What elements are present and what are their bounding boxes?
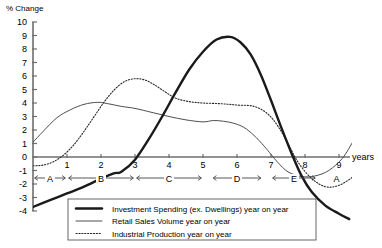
phase-label-c-2: C <box>166 174 173 184</box>
series-line-industrial-production <box>33 79 353 188</box>
y-tick-label: 8 <box>22 44 27 54</box>
phase-brackets: ABCDEA <box>35 174 340 184</box>
y-tick-label: -4 <box>19 206 27 216</box>
y-tick-label: -2 <box>19 179 27 189</box>
x-tick-label: 7 <box>268 160 273 170</box>
y-tick-label: 7 <box>22 58 27 68</box>
y-tick-label: 1 <box>22 139 27 149</box>
y-tick-label: 10 <box>17 17 27 27</box>
x-tick-label: 2 <box>98 160 103 170</box>
legend-label-0: Investment Spending (ex. Dwellings) year… <box>112 205 289 214</box>
y-tick-label: 5 <box>22 85 27 95</box>
legend-label-1: Retail Sales Volume year on year <box>112 217 231 226</box>
x-tick-labels: 123456789 <box>64 160 341 170</box>
legend: Investment Spending (ex. Dwellings) year… <box>68 199 316 240</box>
y-tick-label: 4 <box>22 98 27 108</box>
x-tick-label: 5 <box>200 160 205 170</box>
y-axis <box>32 22 37 211</box>
phase-label-a-0: A <box>47 174 53 184</box>
series-group <box>33 37 353 219</box>
y-tick-label: -1 <box>19 166 27 176</box>
y-axis-title: % Change <box>6 4 44 13</box>
y-tick-labels: 109876543210-1-2-3-4 <box>17 17 27 216</box>
phase-label-e-4: E <box>291 174 297 184</box>
x-axis-title: years <box>352 152 375 162</box>
x-tick-label: 6 <box>234 160 239 170</box>
y-tick-label: 3 <box>22 112 27 122</box>
x-axis <box>33 154 350 158</box>
series-line-investment-spending <box>33 37 349 219</box>
y-tick-label: 0 <box>22 152 27 162</box>
phase-label-b-1: B <box>98 174 104 184</box>
y-tick-label: 6 <box>22 71 27 81</box>
y-tick-label: 9 <box>22 31 27 41</box>
legend-label-2: Industrial Production year on year <box>112 230 232 239</box>
economic-cycle-line-chart: 109876543210-1-2-3-4 123456789 ABCDEA % … <box>0 0 382 248</box>
y-tick-label: 2 <box>22 125 27 135</box>
phase-label-d-3: D <box>234 174 241 184</box>
x-tick-label: 4 <box>166 160 171 170</box>
chart-container: 109876543210-1-2-3-4 123456789 ABCDEA % … <box>0 0 382 248</box>
y-tick-label: -3 <box>19 193 27 203</box>
phase-label-a-5: A <box>333 174 339 184</box>
x-tick-label: 1 <box>64 160 69 170</box>
